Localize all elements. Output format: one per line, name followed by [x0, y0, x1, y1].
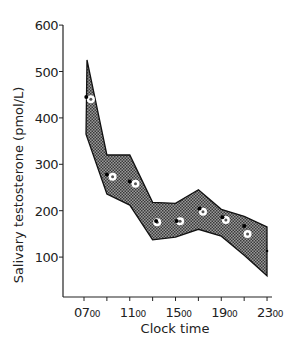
- y-axis-title: Salivary testosterone (pmol/L): [11, 87, 26, 284]
- open-circle-center: [201, 210, 204, 213]
- filled-dot-marker: [128, 179, 132, 183]
- band-area: [86, 60, 267, 276]
- reference-band: [86, 60, 267, 276]
- y-tick-label: 600: [35, 18, 59, 33]
- x-tick-label: 2300: [257, 305, 284, 320]
- filled-dot-marker: [154, 219, 158, 223]
- y-tick-label: 500: [35, 65, 59, 80]
- filled-dot-marker: [105, 173, 109, 177]
- filled-dot-marker: [198, 206, 202, 210]
- x-tick-label: 1900: [211, 305, 238, 320]
- filled-dot-marker: [220, 215, 224, 219]
- open-circle-center: [89, 98, 92, 101]
- open-circle-center: [246, 232, 249, 235]
- open-circle-center: [224, 218, 227, 221]
- filled-dot-marker: [84, 95, 88, 99]
- x-tick-label: 1100: [120, 305, 147, 320]
- open-circle-center: [134, 182, 137, 185]
- y-tick-label: 300: [35, 157, 59, 172]
- x-tick-label: 1500: [166, 305, 193, 320]
- chart: 10020030040050060007001100150019002300 S…: [0, 0, 296, 349]
- open-circle-center: [179, 220, 182, 223]
- filled-dot-marker: [242, 224, 246, 228]
- filled-dot-marker: [266, 250, 269, 253]
- y-tick-label: 200: [35, 204, 59, 219]
- axes: 10020030040050060007001100150019002300: [35, 18, 284, 320]
- x-axis-title: Clock time: [141, 321, 210, 336]
- y-tick-label: 100: [35, 250, 59, 265]
- y-tick-label: 400: [35, 111, 59, 126]
- x-tick-label: 0700: [74, 305, 101, 320]
- open-circle-center: [111, 175, 114, 178]
- filled-dot-marker: [175, 219, 179, 223]
